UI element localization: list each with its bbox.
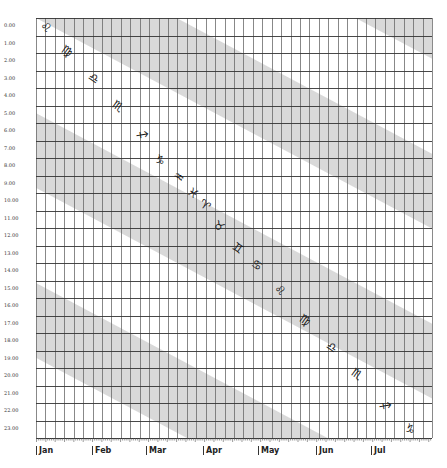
y-tick-label: 22.00 [4, 407, 32, 413]
y-tick-label: 3.00 [4, 75, 32, 81]
y-tick-label: 13.00 [4, 250, 32, 256]
y-tick-label: 21.00 [4, 390, 32, 396]
month-label-jul: Jul [371, 446, 385, 455]
y-tick-label: 17.00 [4, 320, 32, 326]
y-tick-label: 0.00 [4, 22, 32, 28]
y-tick-label: 20.00 [4, 372, 32, 378]
y-tick-label: 19.00 [4, 355, 32, 361]
y-tick-label: 12.00 [4, 232, 32, 238]
y-tick-label: 10.00 [4, 197, 32, 203]
y-tick-label: 4.00 [4, 92, 32, 98]
y-tick-label: 7.00 [4, 145, 32, 151]
zodiac-time-chart: 0.001.002.003.004.005.006.007.008.009.00… [0, 0, 447, 468]
x-axis: JanFebMarAprMayJunJul [36, 438, 432, 468]
plot-area: ♌♍♎♏♐♑♒♓♈♉♊♋♌♍♎♏♐♑ [36, 18, 433, 438]
month-label-may: May [258, 446, 279, 455]
y-tick-label: 8.00 [4, 162, 32, 168]
y-tick-label: 18.00 [4, 337, 32, 343]
y-tick-label: 2.00 [4, 57, 32, 63]
y-tick-label: 16.00 [4, 302, 32, 308]
x-axis-ticks [36, 438, 432, 446]
y-tick-label: 11.00 [4, 215, 32, 221]
month-label-jun: Jun [316, 446, 333, 455]
month-label-apr: Apr [203, 446, 222, 455]
month-label-mar: Mar [146, 446, 166, 455]
y-tick-label: 15.00 [4, 285, 32, 291]
y-tick-label: 9.00 [4, 180, 32, 186]
y-tick-label: 6.00 [4, 127, 32, 133]
month-label-feb: Feb [92, 446, 111, 455]
month-label-jan: Jan [36, 446, 53, 455]
y-tick-label: 5.00 [4, 110, 32, 116]
y-tick-label: 14.00 [4, 267, 32, 273]
y-tick-label: 1.00 [4, 40, 32, 46]
y-tick-label: 23.00 [4, 425, 32, 431]
